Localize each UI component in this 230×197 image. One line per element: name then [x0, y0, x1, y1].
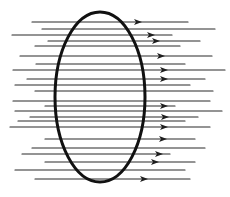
magnetic-flux-loop-diagram — [0, 0, 230, 197]
conducting-loop — [55, 12, 145, 182]
field-lines-group — [10, 22, 225, 179]
